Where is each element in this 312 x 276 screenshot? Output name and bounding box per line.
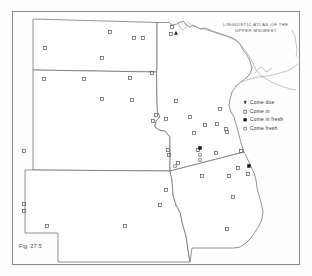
open-square-icon [241,108,250,116]
atlas-title-line-2: UPPER MIDWEST [206,28,306,34]
atlas-title: LINGUISTIC ATLAS OF THE UPPER MIDWEST [206,22,306,34]
data-point [248,165,251,168]
data-point [23,150,26,153]
figure-root: LINGUISTIC ATLAS OF THE UPPER MIDWEST Co… [0,0,312,276]
state-north-dakota [33,19,157,72]
legend-item-come-due: Come due [241,99,307,108]
legend-item-come-fresh: Come fresh [241,125,307,134]
filled-triangle-icon [241,99,250,107]
map-canvas [0,0,312,276]
map-legend: Come due Come in Come in fresh [241,99,307,133]
figure-label: Fig. 27.5 [19,243,42,249]
legend-label-come-due: Come due [250,99,274,107]
legend-label-come-fresh: Come fresh [250,125,277,133]
legend-label-come-in: Come in [250,108,270,116]
legend-item-come-in: Come in [241,108,307,117]
open-square-small-icon [241,125,250,133]
data-point [199,147,202,150]
filled-square-icon [241,116,250,124]
legend-item-come-in-fresh: Come in fresh [241,116,307,125]
state-south-dakota [33,70,170,171]
legend-label-come-in-fresh: Come in fresh [250,116,283,124]
state-nebraska [25,170,190,262]
